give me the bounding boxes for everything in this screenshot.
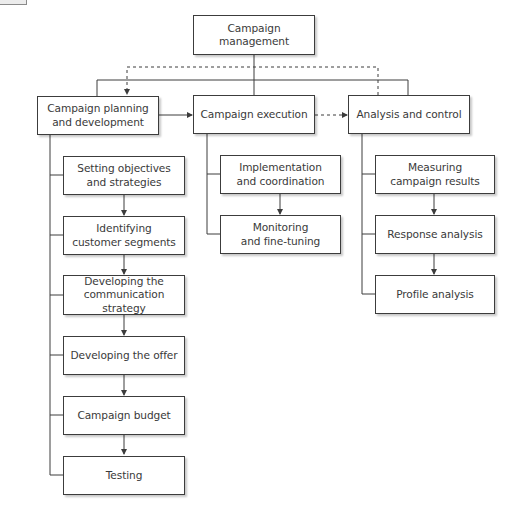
node-label: Implementation and coordination [237, 161, 325, 188]
node-measuring-results: Measuring campaign results [375, 155, 495, 194]
node-label: Campaign planning and development [47, 102, 148, 129]
node-label: Analysis and control [356, 108, 461, 122]
node-analysis-control: Analysis and control [348, 95, 470, 134]
node-label: Developing the communication strategy [64, 275, 184, 316]
node-campaign-management: Campaign management [193, 15, 315, 55]
node-label: Campaign execution [201, 108, 308, 122]
node-implementation: Implementation and coordination [220, 155, 341, 194]
node-campaign-planning: Campaign planning and development [37, 96, 159, 135]
node-label: Identifying customer segments [72, 222, 176, 249]
node-testing: Testing [63, 456, 185, 495]
node-label: Testing [106, 469, 143, 483]
node-label: Developing the offer [71, 349, 178, 363]
node-profile-analysis: Profile analysis [375, 275, 495, 314]
node-label: Setting objectives and strategies [77, 162, 170, 189]
node-monitoring: Monitoring and fine-tuning [220, 215, 341, 254]
node-identifying-segments: Identifying customer segments [63, 216, 185, 255]
node-label: Monitoring and fine-tuning [241, 221, 321, 248]
node-label: Profile analysis [396, 288, 474, 302]
node-label: Campaign budget [77, 409, 170, 423]
node-label: Measuring campaign results [390, 161, 480, 188]
node-label: Response analysis [387, 228, 482, 242]
node-campaign-budget: Campaign budget [63, 396, 185, 435]
node-campaign-execution: Campaign execution [193, 95, 315, 134]
node-developing-offer: Developing the offer [63, 336, 185, 375]
node-setting-objectives: Setting objectives and strategies [63, 156, 185, 195]
node-label: Campaign management [194, 22, 314, 49]
node-response-analysis: Response analysis [375, 215, 495, 254]
node-communication-strategy: Developing the communication strategy [63, 275, 185, 315]
